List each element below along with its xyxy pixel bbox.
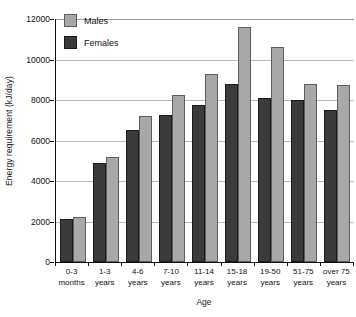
legend-swatch-females-icon [64,36,77,49]
bar-group [122,19,155,262]
x-axis-tick-mark [121,262,122,266]
bar-females [192,105,205,262]
y-axis-tick-mark [50,222,54,223]
bar-group [155,19,188,262]
legend-item-females: Females [64,36,119,49]
bars-layer [56,19,354,262]
x-axis-tick-mark [320,262,321,266]
y-axis-tick-label: 10000 [26,55,50,65]
bar-females [291,100,304,262]
x-axis-tick-label: 1-3 years [88,267,121,295]
x-axis-tick-mark [88,262,89,266]
bar-males [106,157,119,262]
x-axis-tick-mark [254,262,255,266]
y-axis-tick-label: 12000 [26,14,50,24]
bar-females [126,130,139,262]
x-axis-tick-label: over 75 years [320,267,353,295]
bar-group [222,19,255,262]
x-axis-tick-label: 51-75 years [287,267,320,295]
bar-females [93,163,106,262]
bar-females [258,98,271,262]
bar-group [89,19,122,262]
x-axis-tick-label: 19-50 years [254,267,287,295]
bar-group [255,19,288,262]
x-axis-tick-mark [221,262,222,266]
bar-females [225,84,238,262]
y-axis-tick-mark [50,60,54,61]
x-axis-tick-label: 11-14 years [187,267,220,295]
bar-group [321,19,354,262]
x-axis-tick-label: 15-18 years [221,267,254,295]
x-axis-tick-label: 7-10 years [154,267,187,295]
y-axis-tick-label: 8000 [31,95,50,105]
x-axis-tick-mark [353,262,354,266]
legend-label-males: Males [84,16,108,26]
bar-males [337,85,350,262]
bar-group [56,19,89,262]
y-axis-tick-mark [50,19,54,20]
y-axis-tick-mark [50,100,54,101]
x-axis-title: Age [55,297,353,307]
y-axis-tick-label: 6000 [31,136,50,146]
y-axis-tick-label: 4000 [31,176,50,186]
energy-requirement-bar-chart: Energy requirement (kJ/day) 020004000600… [0,0,356,317]
y-axis-tick-mark [50,141,54,142]
legend-swatch-males-icon [64,14,77,27]
y-axis-title-text: Energy requirement (kJ/day) [4,76,14,186]
y-axis-tick-label: 2000 [31,217,50,227]
bar-group [288,19,321,262]
legend-label-females: Females [84,38,119,48]
x-axis-tick-label: 0-3 months [55,267,88,295]
plot-area [55,19,354,263]
x-axis-tick-mark [55,262,56,266]
bar-males [205,74,218,262]
bar-females [60,219,73,262]
bar-males [271,47,284,262]
bar-males [172,95,185,262]
bar-males [304,84,317,262]
x-axis-tick-label: 4-6 years [121,267,154,295]
y-axis-tick-mark [50,262,54,263]
legend: Males Females [64,14,119,49]
y-axis-tick-labels: 020004000600080001000012000 [18,0,54,280]
x-axis-tick-mark [287,262,288,266]
bar-females [159,115,172,262]
bar-group [188,19,221,262]
y-axis-tick-mark [50,181,54,182]
bar-males [139,116,152,262]
x-axis-tick-mark [187,262,188,266]
bar-males [73,217,86,262]
y-axis-title: Energy requirement (kJ/day) [0,0,18,262]
legend-item-males: Males [64,14,119,27]
bar-males [238,27,251,262]
x-axis-tick-mark [154,262,155,266]
bar-females [324,110,337,262]
x-axis-tick-labels: 0-3 months1-3 years4-6 years7-10 years11… [55,267,353,295]
